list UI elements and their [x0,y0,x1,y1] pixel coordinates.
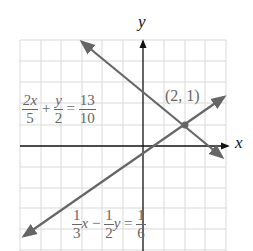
intersection-point [182,122,189,129]
y-axis-label: y [138,12,146,32]
equation-1: 2x5 + y2 = 1310 [22,93,96,126]
line-1 [82,42,222,157]
point-label: (2, 1) [165,87,200,105]
equation-2: 13x − 12y = 16 [72,208,146,241]
x-axis-label: x [235,133,243,153]
